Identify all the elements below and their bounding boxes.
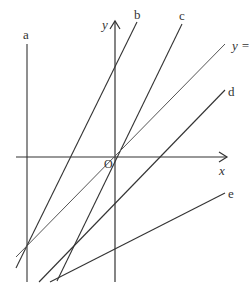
label-b: b (134, 7, 141, 22)
origin-label: O (104, 157, 113, 171)
line-b (16, 22, 137, 268)
line-c (57, 24, 182, 281)
label-c: c (179, 8, 185, 23)
label-d: d (228, 84, 235, 99)
label-a: a (23, 27, 29, 42)
y-axis-label: y (100, 17, 108, 32)
label-e: e (228, 186, 234, 201)
coordinate-diagram: a b c y = d e y x O (0, 0, 249, 294)
x-axis (16, 152, 227, 162)
x-axis-label: x (218, 163, 225, 178)
line-e (50, 193, 225, 282)
line-d (39, 90, 225, 282)
label-y-equals: y = (230, 38, 249, 53)
line-y-equals-x (16, 44, 225, 257)
